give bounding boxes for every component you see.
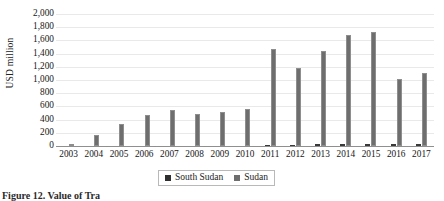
bar-group <box>132 14 157 146</box>
y-axis-tick-label: 2,000 <box>33 9 54 18</box>
bar-sudan-2010 <box>245 109 250 146</box>
bar-group <box>333 14 358 146</box>
x-axis-tick-label: 2009 <box>211 149 230 160</box>
legend-swatch-icon <box>165 175 171 181</box>
legend-item-sudan[interactable]: Sudan <box>234 172 268 183</box>
figure-container: USD million 02004006008001,0001,2001,400… <box>0 0 444 201</box>
bar-group <box>157 14 182 146</box>
x-axis-tick-label: 2013 <box>311 149 330 160</box>
bar-group <box>207 14 232 146</box>
bar-group <box>308 14 333 146</box>
bar-sudan-2013 <box>321 51 326 146</box>
y-axis-tick-labels: 02004006008001,0001,2001,4001,6001,8002,… <box>18 14 54 147</box>
x-axis-tick-label: 2007 <box>160 149 179 160</box>
x-axis-tick-label: 2010 <box>236 149 255 160</box>
bar-group <box>384 14 409 146</box>
y-axis-tick-label: 800 <box>40 89 54 98</box>
bar-group <box>283 14 308 146</box>
bar-group <box>106 14 131 146</box>
bar-group <box>81 14 106 146</box>
x-axis-line <box>56 146 434 147</box>
legend-label: Sudan <box>244 172 268 183</box>
bar-sudan-2017 <box>422 73 427 146</box>
y-axis-tick-label: 600 <box>40 102 54 111</box>
y-axis-title: USD million <box>5 23 19 103</box>
x-axis-tick-label: 2003 <box>59 149 78 160</box>
x-axis-tick-label: 2004 <box>85 149 104 160</box>
bar-group <box>182 14 207 146</box>
bar-sudan-2008 <box>195 114 200 146</box>
bar-series-container <box>56 14 434 146</box>
figure-caption: Figure 12. Value of Tra <box>2 190 182 201</box>
bar-group <box>258 14 283 146</box>
bar-group <box>232 14 257 146</box>
bar-group <box>409 14 434 146</box>
x-axis-tick-label: 2015 <box>362 149 381 160</box>
y-axis-tick-label: 200 <box>40 128 54 137</box>
legend-label: South Sudan <box>175 172 223 183</box>
x-axis-tick-label: 2016 <box>387 149 406 160</box>
bar-sudan-2012 <box>296 68 301 146</box>
x-axis-tick-label: 2008 <box>185 149 204 160</box>
bar-sudan-2015 <box>371 32 376 146</box>
y-axis-tick-label: 0 <box>49 141 54 150</box>
y-axis-tick-label: 1,600 <box>33 36 54 45</box>
x-axis-tick-label: 2006 <box>135 149 154 160</box>
bar-group <box>56 14 81 146</box>
x-axis-tick-label: 2011 <box>261 149 279 160</box>
legend-swatch-icon <box>234 175 240 181</box>
bar-sudan-2009 <box>220 112 225 146</box>
bar-group <box>358 14 383 146</box>
plot-area <box>56 14 434 147</box>
bar-sudan-2016 <box>397 79 402 146</box>
y-axis-tick-label: 1,800 <box>33 23 54 32</box>
bar-sudan-2004 <box>94 135 99 146</box>
bar-sudan-2014 <box>346 35 351 146</box>
x-axis-tick-label: 2017 <box>412 149 431 160</box>
y-axis-tick-label: 1,400 <box>33 49 54 58</box>
y-axis-tick-label: 1,000 <box>33 75 54 84</box>
chart-legend: South SudanSudan <box>158 170 275 186</box>
y-axis-tick-label: 1,200 <box>33 62 54 71</box>
x-axis-tick-label: 2012 <box>286 149 305 160</box>
legend-item-south-sudan[interactable]: South Sudan <box>165 172 223 183</box>
x-axis-tick-labels: 2003200420052006200720082009201020112012… <box>56 149 434 162</box>
bar-sudan-2011 <box>271 49 276 146</box>
bar-sudan-2005 <box>119 124 124 146</box>
bar-sudan-2006 <box>145 115 150 146</box>
bar-sudan-2007 <box>170 110 175 146</box>
x-axis-tick-label: 2014 <box>337 149 356 160</box>
x-axis-tick-label: 2005 <box>110 149 129 160</box>
y-axis-tick-label: 400 <box>40 115 54 124</box>
